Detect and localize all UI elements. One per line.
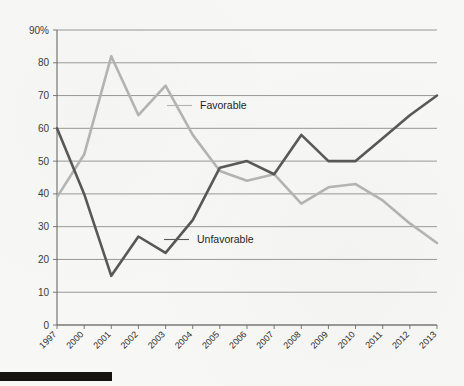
- series-line-unfavorable: [57, 96, 437, 276]
- y-tick-label-40: 40: [38, 188, 50, 199]
- x-tick-label-2011: 2011: [363, 329, 384, 350]
- x-tick-label-2006: 2006: [227, 329, 248, 350]
- y-tick-label-50: 50: [38, 156, 50, 167]
- series-label-unfavorable: Unfavorable: [197, 233, 254, 245]
- x-tick-label-2010: 2010: [336, 329, 357, 350]
- x-tick-label-2008: 2008: [281, 329, 302, 350]
- line-chart-svg: 0102030405060708090% 1997200020012002200…: [0, 0, 464, 386]
- x-tick-label-2007: 2007: [254, 329, 275, 350]
- x-tick-label-2003: 2003: [146, 329, 167, 350]
- axis-lines: [57, 30, 437, 325]
- x-tick-label-2013: 2013: [417, 329, 438, 350]
- y-tick-label-10: 10: [38, 287, 50, 298]
- y-tick-label-90: 90%: [29, 25, 49, 36]
- y-axis-tick-labels: 0102030405060708090%: [29, 25, 57, 331]
- y-tick-label-70: 70: [38, 90, 50, 101]
- x-axis-tick-labels: 1997200020012002200320042005200620072008…: [37, 325, 438, 351]
- series-label-favorable: Favorable: [200, 99, 247, 111]
- y-tick-label-60: 60: [38, 123, 50, 134]
- y-tick-label-80: 80: [38, 57, 50, 68]
- x-tick-label-2001: 2001: [91, 329, 112, 350]
- x-tick-label-1997: 1997: [37, 329, 58, 350]
- x-tick-label-2012: 2012: [390, 329, 411, 350]
- chart-figure: 0102030405060708090% 1997200020012002200…: [0, 0, 464, 386]
- y-tick-label-30: 30: [38, 221, 50, 232]
- gridlines-group: [57, 30, 437, 325]
- y-tick-label-0: 0: [43, 320, 49, 331]
- x-tick-label-2000: 2000: [64, 329, 85, 350]
- x-tick-label-2004: 2004: [173, 329, 194, 350]
- x-tick-label-2009: 2009: [309, 329, 330, 350]
- x-tick-label-2002: 2002: [119, 329, 140, 350]
- footer-black-bar: [0, 372, 112, 381]
- y-tick-label-20: 20: [38, 254, 50, 265]
- x-tick-label-2005: 2005: [200, 329, 221, 350]
- series-annotations-group: FavorableUnfavorable: [164, 99, 254, 245]
- series-line-favorable: [57, 56, 437, 243]
